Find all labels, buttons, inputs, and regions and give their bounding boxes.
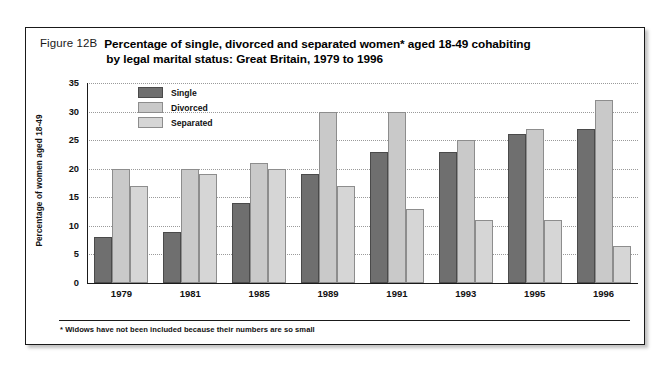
bar-divorced bbox=[526, 129, 544, 283]
bar-separated bbox=[199, 174, 217, 283]
x-tick-label: 1981 bbox=[156, 288, 225, 299]
bar-group: 1985 bbox=[225, 83, 294, 283]
figure-title-line-1: Percentage of single, divorced and separ… bbox=[104, 37, 530, 52]
x-tick-label: 1985 bbox=[225, 288, 294, 299]
footnote-divider bbox=[59, 320, 630, 321]
bar-single bbox=[577, 129, 595, 283]
bar-set bbox=[439, 83, 493, 283]
y-tick-label: 10 bbox=[69, 221, 79, 231]
y-tick-label: 35 bbox=[69, 78, 79, 88]
figure-panel: Figure 12B Percentage of single, divorce… bbox=[25, 27, 645, 345]
y-tick-label: 30 bbox=[69, 107, 79, 117]
bar-divorced bbox=[112, 169, 130, 283]
bar-group: 1996 bbox=[569, 83, 638, 283]
bar-separated bbox=[406, 209, 424, 283]
bar-group: 1991 bbox=[363, 83, 432, 283]
legend-swatch-divorced bbox=[138, 102, 163, 113]
figure-header: Figure 12B Percentage of single, divorce… bbox=[40, 37, 634, 67]
y-axis-label-text: Percentage of women aged 18-49 bbox=[35, 114, 44, 246]
bar-single bbox=[508, 134, 526, 283]
x-tick-label: 1993 bbox=[431, 288, 500, 299]
bar-divorced bbox=[319, 112, 337, 283]
x-axis-line bbox=[87, 283, 638, 284]
footnote-text: * Widows have not been included because … bbox=[60, 325, 315, 334]
legend: SingleDivorcedSeparated bbox=[138, 86, 213, 131]
bar-separated bbox=[337, 186, 355, 283]
bar-single bbox=[163, 232, 181, 283]
bar-separated bbox=[130, 186, 148, 283]
x-tick-label: 1996 bbox=[569, 288, 638, 299]
bar-single bbox=[301, 174, 319, 283]
y-tick-label: 20 bbox=[69, 164, 79, 174]
bar-set bbox=[301, 83, 355, 283]
bar-single bbox=[370, 152, 388, 283]
legend-label-divorced: Divorced bbox=[171, 103, 208, 113]
figure-number: Figure 12B bbox=[40, 37, 97, 49]
figure-title-block: Percentage of single, divorced and separ… bbox=[104, 37, 530, 67]
bar-single bbox=[232, 203, 250, 283]
bar-group: 1993 bbox=[431, 83, 500, 283]
bar-divorced bbox=[250, 163, 268, 283]
legend-item-single: Single bbox=[138, 86, 213, 99]
x-tick-label: 1989 bbox=[294, 288, 363, 299]
legend-item-divorced: Divorced bbox=[138, 101, 213, 114]
bar-separated bbox=[475, 220, 493, 283]
x-tick-label: 1979 bbox=[87, 288, 156, 299]
legend-swatch-single bbox=[138, 87, 163, 98]
bar-set bbox=[370, 83, 424, 283]
y-tick-label: 15 bbox=[69, 192, 79, 202]
x-tick-label: 1991 bbox=[363, 288, 432, 299]
x-tick-label: 1995 bbox=[500, 288, 569, 299]
legend-label-separated: Separated bbox=[171, 118, 213, 128]
figure-title-line-2: by legal marital status: Great Britain, … bbox=[104, 52, 530, 67]
bar-separated bbox=[268, 169, 286, 283]
y-axis-label: Percentage of women aged 18-49 bbox=[30, 80, 48, 280]
bar-divorced bbox=[457, 140, 475, 283]
chart-area: Percentage of women aged 18-49 051015202… bbox=[26, 80, 644, 325]
y-tick-label: 0 bbox=[74, 278, 79, 288]
legend-swatch-separated bbox=[138, 117, 163, 128]
bar-separated bbox=[613, 246, 631, 283]
bar-single bbox=[94, 237, 112, 283]
bar-set bbox=[577, 83, 631, 283]
bar-separated bbox=[544, 220, 562, 283]
bar-single bbox=[439, 152, 457, 283]
bar-divorced bbox=[595, 100, 613, 283]
legend-label-single: Single bbox=[171, 88, 197, 98]
bar-divorced bbox=[181, 169, 199, 283]
legend-item-separated: Separated bbox=[138, 116, 213, 129]
y-tick-label: 25 bbox=[69, 135, 79, 145]
bar-group: 1995 bbox=[500, 83, 569, 283]
bar-group: 1989 bbox=[294, 83, 363, 283]
y-tick-label: 5 bbox=[74, 249, 79, 259]
bar-set bbox=[508, 83, 562, 283]
bar-divorced bbox=[388, 112, 406, 283]
bar-set bbox=[232, 83, 286, 283]
